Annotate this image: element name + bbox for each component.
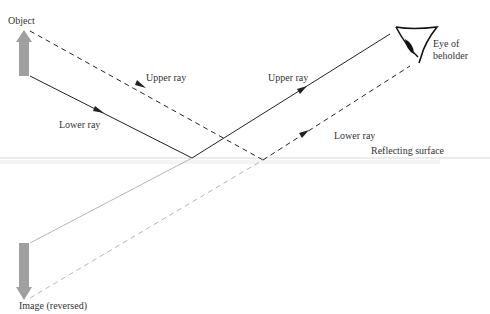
lower-ray-incident-label: Lower ray — [59, 119, 100, 130]
eye-label-line2: beholder — [433, 50, 468, 61]
eye-icon — [396, 27, 437, 63]
object-label: Object — [8, 15, 35, 26]
reflected-solid-arrowhead — [297, 86, 307, 94]
upper-ray-incident-label: Upper ray — [146, 72, 186, 83]
reflecting-surface-label: Reflecting surface — [371, 145, 444, 156]
reflection-diagram — [0, 0, 490, 314]
object-arrow-icon — [16, 30, 32, 76]
lower-ray-incident — [30, 76, 192, 158]
surface-shadow — [0, 160, 440, 164]
eye-label-line1: Eye of — [433, 38, 459, 49]
lower-ray-virtual — [30, 158, 192, 243]
upper-ray-virtual — [30, 160, 263, 298]
upper-ray-incident — [30, 31, 263, 160]
image-arrow-icon — [16, 243, 32, 300]
lower-ray-reflected-label: Lower ray — [334, 130, 375, 141]
upper-ray-reflected-label: Upper ray — [268, 72, 308, 83]
upper-ray-arrowhead — [135, 80, 146, 88]
reflected-dashed-arrowhead — [299, 130, 309, 138]
image-label: Image (reversed) — [19, 300, 87, 311]
lower-ray-arrowhead — [93, 106, 104, 113]
